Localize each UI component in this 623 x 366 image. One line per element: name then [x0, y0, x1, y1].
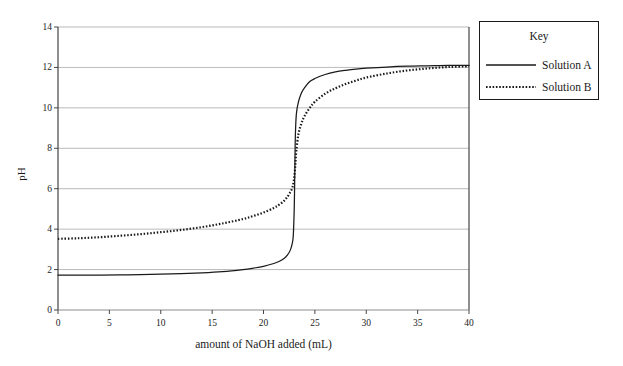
- x-tick-label: 0: [56, 318, 61, 328]
- x-tick-label: 35: [413, 318, 423, 328]
- x-tick-label: 5: [107, 318, 112, 328]
- y-tick-label: 2: [28, 265, 52, 275]
- legend-label-solution-a: Solution A: [542, 59, 592, 71]
- x-tick-label: 15: [207, 318, 217, 328]
- y-tick-label: 10: [28, 103, 52, 113]
- legend: Key Solution A Solution B: [479, 21, 599, 100]
- data-series: [58, 65, 469, 275]
- series-line-solution-b: [58, 66, 469, 239]
- y-tick-label: 14: [28, 22, 52, 32]
- titration-chart: 02468101214 0510152025303540 pH amount o…: [0, 0, 623, 366]
- legend-item-solution-a: Solution A: [486, 57, 594, 73]
- legend-label-solution-b: Solution B: [542, 81, 592, 93]
- y-tick-label: 12: [28, 62, 52, 72]
- x-tick-label: 20: [259, 318, 269, 328]
- axis-lines: [58, 27, 469, 310]
- y-tick-label: 6: [28, 184, 52, 194]
- x-axis-title: amount of NaOH added (mL): [58, 338, 469, 350]
- y-axis-title: pH: [15, 167, 27, 180]
- legend-swatch-dotted: [486, 82, 536, 92]
- y-tick-label: 4: [28, 224, 52, 234]
- x-tick-label: 25: [310, 318, 320, 328]
- series-line-solution-a: [58, 65, 469, 275]
- legend-item-solution-b: Solution B: [486, 79, 594, 95]
- legend-swatch-solid: [486, 60, 536, 70]
- x-tick-label: 10: [156, 318, 166, 328]
- x-tick-label: 30: [362, 318, 372, 328]
- x-tick-label: 40: [464, 318, 474, 328]
- gridlines: [58, 27, 469, 310]
- y-tick-label: 8: [28, 143, 52, 153]
- legend-title: Key: [480, 30, 598, 42]
- y-tick-label: 0: [28, 305, 52, 315]
